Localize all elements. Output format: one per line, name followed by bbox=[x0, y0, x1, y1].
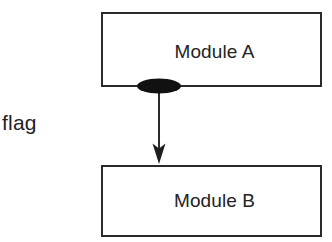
flag-annotation-label: flag bbox=[2, 111, 37, 135]
diagram-canvas: Module A Module B flag bbox=[0, 0, 332, 242]
coupling-connector bbox=[0, 0, 332, 242]
flag-coupling-ellipse-icon bbox=[137, 79, 181, 94]
